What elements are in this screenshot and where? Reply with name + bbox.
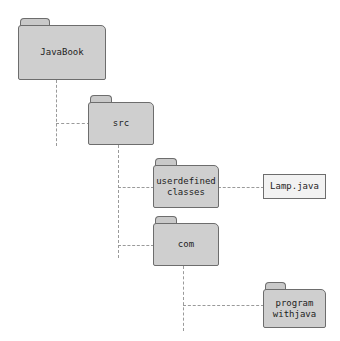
folder-label: JavaBook bbox=[38, 47, 85, 58]
connector-src-to-userdefined bbox=[118, 187, 154, 188]
connector-src-trunk bbox=[118, 145, 119, 258]
folder-body: src bbox=[88, 102, 154, 145]
file-label: Lamp.java bbox=[270, 181, 319, 192]
folder-userdefined-classes[interactable]: userdefined classes bbox=[153, 158, 219, 208]
folder-body: JavaBook bbox=[18, 25, 106, 80]
connector-userdefined-to-lampjava bbox=[218, 187, 264, 188]
folder-body: userdefined classes bbox=[153, 165, 219, 208]
folder-body: program withjava bbox=[263, 289, 326, 328]
folder-structure-diagram: JavaBook src userdefined classes Lamp.ja… bbox=[0, 0, 340, 341]
folder-label: program withjava bbox=[271, 298, 318, 320]
connector-javabook-trunk bbox=[56, 80, 57, 146]
folder-javabook[interactable]: JavaBook bbox=[18, 18, 106, 80]
folder-body: com bbox=[153, 223, 219, 266]
folder-label: src bbox=[111, 118, 131, 129]
folder-program-withjava[interactable]: program withjava bbox=[263, 282, 326, 328]
file-lamp-java[interactable]: Lamp.java bbox=[263, 174, 326, 199]
connector-com-trunk bbox=[183, 266, 184, 331]
connector-src-to-com bbox=[118, 245, 154, 246]
connector-javabook-to-src bbox=[56, 123, 90, 124]
folder-label: userdefined classes bbox=[154, 176, 218, 198]
folder-src[interactable]: src bbox=[88, 95, 154, 145]
folder-label: com bbox=[176, 239, 196, 250]
connector-com-to-programwithjava bbox=[183, 305, 264, 306]
folder-com[interactable]: com bbox=[153, 216, 219, 266]
